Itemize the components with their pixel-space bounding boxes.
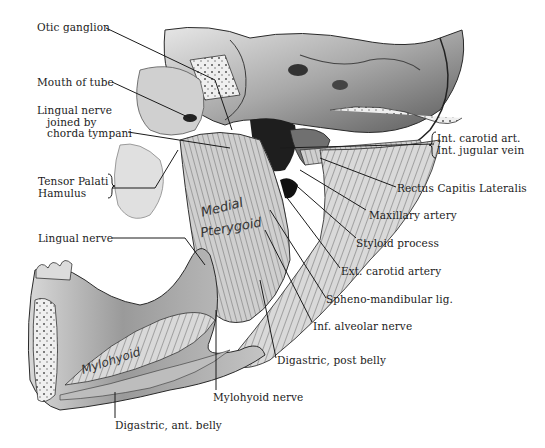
label-tensor-palati: Tensor Palati (38, 175, 109, 187)
label-lingual-nerve-chorda-1: Lingual nerve (37, 104, 112, 116)
label-mouth-of-tube: Mouth of tube (37, 76, 114, 88)
label-styloid-process: Styloid process (356, 237, 439, 249)
label-hamulus: Hamulus (38, 187, 86, 199)
label-lingual-nerve: Lingual nerve (38, 232, 113, 244)
label-mylohyoid-nerve: Mylohyoid nerve (213, 391, 303, 403)
brace-tensor-hamulus (108, 174, 115, 198)
anatomy-figure: Medial Pterygoid Mylohyoid (0, 0, 545, 448)
label-rectus-capitis-lateralis: Rectus Capitis Lateralis (397, 182, 527, 194)
label-int-jugular-vein: Int. jugular vein (437, 144, 524, 156)
illustration: Medial Pterygoid Mylohyoid (0, 0, 545, 448)
label-maxillary-artery: Maxillary artery (369, 209, 457, 221)
label-otic-ganglion: Otic ganglion (37, 21, 110, 33)
label-spheno-mandibular-lig: Spheno-mandibular lig. (326, 293, 453, 305)
label-int-carotid-art: Int. carotid art. (437, 132, 520, 144)
label-inf-alveolar-nerve: Inf. alveolar nerve (313, 320, 412, 332)
label-digastric-ant-belly: Digastric, ant. belly (115, 419, 222, 431)
label-lingual-nerve-chorda-3: chorda tympani (47, 127, 132, 139)
label-digastric-post-belly: Digastric, post belly (277, 354, 386, 366)
label-ext-carotid-artery: Ext. carotid artery (341, 265, 441, 277)
